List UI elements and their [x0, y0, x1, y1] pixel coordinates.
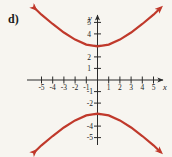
x-tick-label: -2 — [72, 83, 78, 92]
y-axis-label: y — [87, 13, 92, 23]
y-tick-label: -1 — [87, 87, 93, 96]
x-tick-label: -4 — [50, 83, 56, 92]
x-tick-label: 1 — [107, 83, 111, 92]
y-tick-label: -4 — [87, 122, 93, 131]
figure-panel: d) — [0, 0, 172, 157]
x-tick-label: -5 — [38, 83, 44, 92]
x-tick-label: 3 — [129, 83, 133, 92]
y-tick-label: -2 — [87, 99, 93, 108]
x-tick-label: 4 — [140, 83, 144, 92]
y-tick-label: 2 — [87, 53, 91, 62]
x-axis-label: x — [162, 82, 167, 92]
x-tick-label: -3 — [61, 83, 67, 92]
x-tick-label: 2 — [118, 83, 122, 92]
graph-plot: -5 -4 -3 -2 -1 1 2 3 4 5 5 4 2 1 -1 -2 -… — [0, 0, 172, 157]
x-tick-label: 5 — [152, 83, 156, 92]
y-tick-label: -5 — [87, 133, 93, 142]
y-tick-label: 4 — [87, 30, 91, 39]
y-tick-label: 1 — [87, 64, 91, 73]
